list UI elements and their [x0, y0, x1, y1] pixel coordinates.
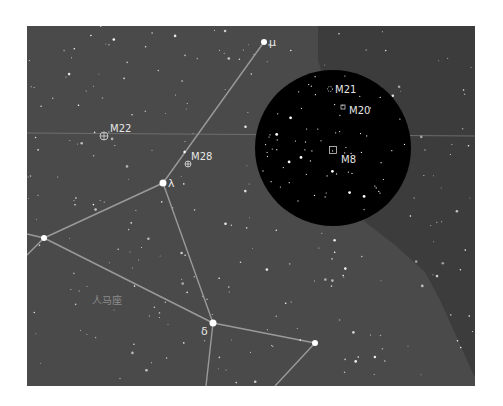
- star: [231, 340, 232, 341]
- star: [471, 67, 472, 68]
- star: [90, 35, 92, 37]
- star: [464, 93, 466, 95]
- star: [70, 289, 71, 290]
- star: [130, 252, 131, 253]
- star: [159, 317, 160, 318]
- star: [126, 165, 129, 168]
- star: [28, 176, 29, 177]
- star: [68, 73, 71, 76]
- star: [266, 268, 269, 271]
- star: [77, 144, 78, 145]
- star: [30, 175, 32, 177]
- star: [105, 44, 106, 45]
- star: [145, 110, 147, 112]
- star: [239, 59, 241, 61]
- star: [291, 301, 292, 302]
- star: [408, 346, 409, 347]
- star: [332, 150, 333, 151]
- star: [430, 225, 431, 226]
- star: [271, 181, 272, 182]
- star: [334, 104, 335, 105]
- star: [314, 281, 315, 282]
- star: [235, 382, 237, 384]
- star: [251, 73, 253, 75]
- star: [111, 138, 114, 141]
- star: [34, 87, 35, 88]
- star: [465, 249, 467, 251]
- star: [168, 324, 169, 325]
- star: [433, 175, 434, 176]
- star-label-delta: δ: [201, 325, 208, 338]
- star: [460, 269, 462, 271]
- star: [149, 315, 150, 316]
- star: [414, 198, 415, 199]
- star-chart: μλδ M22M28M21M20M8 人马座: [0, 0, 503, 406]
- star: [262, 170, 263, 171]
- star: [38, 195, 39, 196]
- star: [184, 55, 186, 57]
- star: [289, 182, 290, 183]
- star: [73, 273, 75, 275]
- star: [181, 282, 184, 285]
- star: [114, 145, 115, 146]
- star: [130, 222, 132, 224]
- star: [248, 44, 249, 45]
- star: [29, 60, 30, 61]
- star: [244, 190, 247, 193]
- star: [290, 50, 292, 52]
- star: [267, 61, 268, 62]
- star: [93, 86, 94, 87]
- star: [185, 141, 186, 142]
- star: [194, 276, 196, 278]
- star: [120, 378, 121, 379]
- star: [447, 58, 448, 59]
- star: [87, 286, 88, 287]
- star: [181, 279, 182, 280]
- star: [267, 329, 268, 330]
- star: [39, 245, 41, 247]
- star: [331, 170, 334, 173]
- star: [93, 155, 95, 157]
- star: [268, 136, 269, 137]
- star: [80, 330, 81, 331]
- star: [348, 172, 349, 173]
- star: [462, 128, 464, 130]
- star: [249, 217, 250, 218]
- star: [276, 229, 278, 231]
- star: [272, 346, 274, 348]
- star: [283, 167, 284, 168]
- star: [69, 238, 70, 239]
- star: [165, 302, 167, 304]
- star: [57, 176, 58, 177]
- star: [415, 260, 418, 263]
- star: [314, 195, 315, 196]
- star: [380, 97, 381, 98]
- star: [344, 371, 346, 373]
- star: [463, 89, 465, 91]
- star: [100, 200, 101, 201]
- star: [345, 147, 346, 148]
- star: [66, 76, 67, 77]
- star: [154, 307, 156, 309]
- star: [269, 134, 270, 135]
- star: [214, 30, 215, 31]
- star: [277, 139, 278, 140]
- star: [126, 62, 128, 64]
- star: [117, 249, 119, 251]
- star: [197, 58, 199, 60]
- star: [181, 176, 182, 177]
- star: [336, 173, 337, 174]
- star: [379, 193, 380, 194]
- star: [352, 331, 355, 334]
- star: [317, 129, 318, 130]
- star: [113, 38, 116, 41]
- star: [381, 280, 382, 281]
- star: [297, 328, 298, 329]
- star: [165, 113, 166, 114]
- star: [151, 32, 153, 34]
- star: [339, 115, 340, 116]
- star: [421, 374, 422, 375]
- star: [311, 150, 312, 151]
- star: [193, 133, 194, 134]
- star: [145, 46, 147, 48]
